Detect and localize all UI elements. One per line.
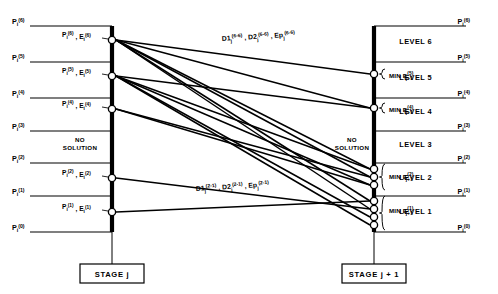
pressure-label: Pi(6) bbox=[12, 17, 25, 27]
state-node[interactable] bbox=[370, 70, 377, 77]
state-node[interactable] bbox=[108, 208, 115, 215]
stage-j-label: STAGE j bbox=[95, 270, 130, 279]
transition-edge bbox=[116, 40, 370, 74]
annotation-leader bbox=[102, 107, 108, 108]
right-boundary-lines bbox=[374, 26, 466, 232]
node-annotations: Pi(6) , Ei(6)Pi(5) , Ei(5)Pi(4) , Ei(4)P… bbox=[62, 31, 108, 214]
level-labels: LEVEL 6LEVEL 5LEVEL 4LEVEL 3LEVEL 2LEVEL… bbox=[399, 37, 432, 216]
level-label: LEVEL 6 bbox=[399, 37, 432, 46]
state-node[interactable] bbox=[370, 197, 377, 204]
min-energy-labels: MIN E(5)j+1MIN E(4)j+1MIN E(2)j+1MIN E(1… bbox=[380, 69, 414, 230]
transition-edge bbox=[116, 201, 370, 212]
state-node[interactable] bbox=[370, 165, 377, 172]
state-node[interactable] bbox=[370, 181, 377, 188]
group-brace bbox=[380, 196, 386, 230]
state-node[interactable] bbox=[370, 104, 377, 111]
transition-edge bbox=[116, 109, 370, 177]
group-brace bbox=[380, 69, 386, 79]
group-brace bbox=[380, 164, 386, 190]
state-node[interactable] bbox=[108, 36, 115, 43]
annotation-leader bbox=[102, 176, 108, 177]
transition-edge bbox=[116, 40, 370, 177]
state-node[interactable] bbox=[108, 174, 115, 181]
stage-transition-diagram: Pi(6)Pi(5)Pi(4)Pi(3)Pi(2)Pi(1)Pi(0) Pi(6… bbox=[0, 0, 498, 294]
annotation-leader bbox=[102, 210, 108, 211]
node-annotation: Pi(6) , Ei(6) bbox=[62, 31, 91, 42]
pressure-label: Pi(4) bbox=[12, 89, 25, 99]
stage-j-plus-1-label: STAGE j + 1 bbox=[349, 270, 399, 279]
group-brace bbox=[380, 103, 386, 113]
node-annotation: Pi(1) , Ei(1) bbox=[62, 203, 91, 214]
pressure-label: Pi(5) bbox=[12, 53, 25, 63]
annotation-leader bbox=[102, 38, 108, 39]
edge-label: D1j(6-6) , D2j(6-6) , Epj(6-6) bbox=[221, 28, 295, 46]
node-annotation: Pi(4) , Ei(4) bbox=[62, 100, 91, 111]
pressure-label: Pi(0) bbox=[12, 223, 25, 233]
state-node[interactable] bbox=[108, 105, 115, 112]
transition-edges bbox=[116, 40, 370, 225]
stage-boxes: STAGE jSTAGE j + 1 bbox=[80, 232, 406, 283]
pressure-label: Pi(2) bbox=[12, 154, 25, 164]
level-label: LEVEL 3 bbox=[399, 140, 432, 149]
state-node[interactable] bbox=[108, 72, 115, 79]
left-pressure-labels: Pi(6)Pi(5)Pi(4)Pi(3)Pi(2)Pi(1)Pi(0) bbox=[12, 17, 25, 233]
left-boundary-lines bbox=[30, 26, 112, 232]
right-pressure-labels: Pi(6)Pi(5)Pi(4)Pi(3)Pi(2)Pi(1)Pi(0) bbox=[457, 17, 470, 233]
node-annotation: Pi(5) , Ei(5) bbox=[62, 67, 91, 78]
node-annotation: Pi(2) , Ei(2) bbox=[62, 169, 91, 180]
state-node[interactable] bbox=[370, 213, 377, 220]
pressure-label: Pi(1) bbox=[12, 187, 25, 197]
state-node[interactable] bbox=[370, 221, 377, 228]
transition-edge bbox=[116, 76, 370, 169]
annotation-leader bbox=[102, 74, 108, 75]
left-no-solution-label: NOSOLUTION bbox=[63, 136, 98, 151]
right-no-solution-label: NOSOLUTION bbox=[335, 136, 370, 151]
state-node[interactable] bbox=[370, 173, 377, 180]
pressure-label: Pi(3) bbox=[12, 122, 25, 132]
diagram-page: Pi(6)Pi(5)Pi(4)Pi(3)Pi(2)Pi(1)Pi(0) Pi(6… bbox=[0, 0, 498, 294]
state-node[interactable] bbox=[370, 205, 377, 212]
